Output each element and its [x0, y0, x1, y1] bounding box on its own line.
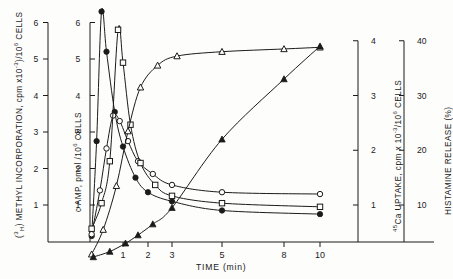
svg-text:1: 1: [371, 200, 376, 210]
series-1-filled-circle: [89, 8, 323, 239]
svg-text:2: 2: [145, 250, 150, 260]
svg-text:2: 2: [34, 164, 39, 174]
svg-text:40: 40: [417, 36, 427, 46]
svg-text:5: 5: [34, 54, 39, 64]
svg-text:20: 20: [417, 145, 427, 155]
y1-axis: [43, 23, 48, 243]
svg-text:3: 3: [34, 127, 39, 137]
svg-text:1: 1: [34, 200, 39, 210]
y1-axis-title: (3H) METHYL INCORPORATION, cpm x10-3)/10…: [13, 11, 25, 238]
y3-axis-title: 45Ca UPTAKE, cpm x 10-3/106 CELLS: [392, 80, 403, 232]
svg-text:5: 5: [219, 250, 224, 260]
svg-text:4: 4: [76, 91, 81, 101]
svg-text:1: 1: [120, 250, 125, 260]
y2-axis-title: c AMP, pmol /106 CELLS: [72, 112, 83, 212]
series-layer: [88, 8, 323, 260]
y3-axis: [353, 41, 358, 242]
axes-layer: [43, 23, 434, 248]
svg-text:6: 6: [76, 18, 81, 28]
svg-text:6: 6: [34, 18, 39, 28]
svg-text:4: 4: [371, 36, 376, 46]
y2-axis: [90, 23, 95, 243]
series-5-filled-triangle: [90, 43, 323, 260]
x-axis-title: TIME (min): [196, 262, 247, 272]
series-2-open-circle: [89, 113, 323, 237]
svg-text:3: 3: [371, 91, 376, 101]
svg-text:4: 4: [34, 91, 39, 101]
svg-text:30: 30: [417, 91, 427, 101]
svg-text:8: 8: [281, 250, 286, 260]
y4-axis-title: HISTAMINE RELEASE (%): [444, 107, 453, 215]
series-3-open-square: [89, 25, 323, 231]
svg-text:5: 5: [76, 54, 81, 64]
svg-text:2: 2: [371, 145, 376, 155]
svg-text:3: 3: [169, 250, 174, 260]
svg-text:10: 10: [417, 200, 427, 210]
svg-text:10: 10: [315, 250, 325, 260]
